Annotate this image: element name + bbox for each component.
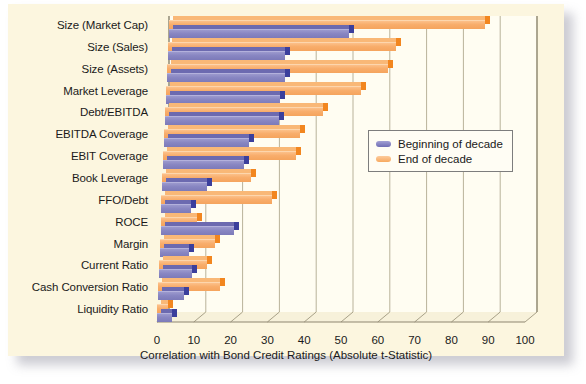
chart-figure: Size (Market Cap)Size (Sales)Size (Asset…: [8, 4, 564, 356]
x-tick-label-30: 30: [261, 334, 274, 346]
legend-entry-0: Beginning of decade: [376, 136, 503, 151]
x-tick-label-70: 70: [408, 334, 421, 346]
legend-label-beginning-of-decade: Beginning of decade: [398, 138, 503, 150]
x-tick-label-80: 80: [445, 334, 458, 346]
legend-label-end-of-decade: End of decade: [398, 153, 472, 165]
x-tick-label-20: 20: [224, 334, 237, 346]
chart-legend: Beginning of decade End of decade: [368, 130, 513, 172]
legend-entry-1: End of decade: [376, 151, 503, 166]
x-axis-title: Correlation with Bond Credit Ratings (Ab…: [8, 349, 564, 361]
x-tick-label-60: 60: [371, 334, 384, 346]
legend-swatch-beginning-of-decade: [376, 141, 391, 147]
legend-swatch-end-of-decade: [376, 156, 391, 162]
x-tick-label-0: 0: [154, 334, 160, 346]
x-tick-label-50: 50: [335, 334, 348, 346]
x-tick-label-90: 90: [482, 334, 495, 346]
x-tick-label-100: 100: [515, 334, 534, 346]
value-axis-ticks: 0102030405060708090100: [8, 4, 564, 356]
x-tick-label-10: 10: [187, 334, 200, 346]
x-tick-label-40: 40: [298, 334, 311, 346]
